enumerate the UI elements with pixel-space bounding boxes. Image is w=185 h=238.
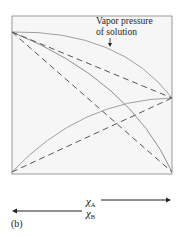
arrow-right-icon	[166, 198, 171, 203]
panel-label: (b)	[11, 218, 23, 229]
subscript-b: B	[91, 213, 95, 220]
mole-fraction-b-label: χB	[86, 207, 95, 220]
plot-frame	[12, 16, 172, 174]
annotation-label-line1: Vapor pressure	[96, 16, 153, 26]
vapor-pressure-diagram: Vapor pressure of solution χA χB (b)	[0, 0, 185, 238]
arrow-left-icon	[12, 209, 17, 214]
annotation-label-line2: of solution	[96, 27, 137, 37]
